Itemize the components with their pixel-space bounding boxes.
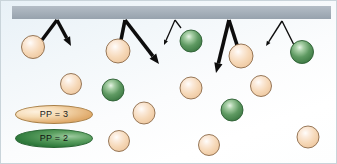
- peach-particle-0: [22, 36, 45, 59]
- legend-item-pp2: PP = 2: [15, 129, 93, 148]
- outgoing-arrow-4-shaft: [218, 20, 229, 63]
- incoming-arrow-2-shaft: [121, 20, 125, 40]
- legend-swatch-pp3: PP = 3: [15, 105, 93, 124]
- peach-particle-3: [229, 44, 253, 68]
- peach-particle-9: [133, 102, 155, 124]
- incoming-arrow-1-shaft: [42, 20, 57, 40]
- peach-particle-7: [180, 77, 202, 99]
- legend-swatch-pp2: PP = 2: [15, 129, 93, 148]
- green-particle-6: [102, 79, 124, 101]
- outgoing-arrow-5-shaft: [269, 21, 282, 42]
- surface-bar-fill: [12, 6, 331, 19]
- particle-scattering-figure: PP = 3 PP = 2: [0, 0, 337, 164]
- incoming-arrow-4-shaft: [229, 20, 237, 45]
- green-particle-10: [221, 99, 243, 121]
- trajectory-arrows: [42, 20, 294, 73]
- outgoing-arrow-4-head: [214, 62, 222, 73]
- legend-label-pp3: PP = 3: [40, 110, 68, 119]
- peach-particle-12: [199, 135, 220, 156]
- green-particle-4: [291, 41, 314, 64]
- peach-particle-13: [297, 126, 319, 148]
- legend-item-pp3: PP = 3: [15, 105, 93, 124]
- peach-particle-5: [61, 74, 82, 95]
- outgoing-arrow-1-shaft: [57, 20, 67, 38]
- peach-particle-8: [251, 76, 272, 97]
- outgoing-arrow-3-shaft: [166, 20, 175, 40]
- peach-particle-1: [106, 39, 130, 63]
- peach-particle-11: [109, 131, 130, 152]
- green-particle-2: [180, 30, 202, 52]
- gray-surface-bar: [12, 6, 331, 19]
- legend-label-pp2: PP = 2: [40, 134, 68, 143]
- incoming-arrow-5-shaft: [282, 21, 294, 45]
- incoming-arrow-3-shaft: [175, 20, 181, 28]
